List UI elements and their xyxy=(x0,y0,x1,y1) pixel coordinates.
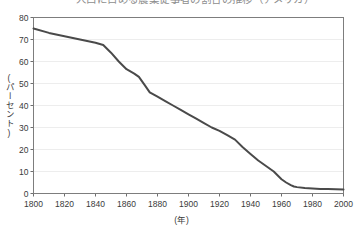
x-tick-label: 1940 xyxy=(241,199,260,209)
x-tick-label: 1800 xyxy=(24,199,43,209)
y-axis-ticks: 01020304050607080 xyxy=(19,13,33,199)
x-axis-ticks: 1800182018401860188019001920194019601980… xyxy=(24,194,353,209)
x-tick-label: 1840 xyxy=(86,199,105,209)
y-tick-label: 80 xyxy=(19,13,29,23)
chart-figure: 人口に占める農業従事者の割合の推移（アメリカ） 0102030405060708… xyxy=(0,0,363,230)
x-tick-label: 1820 xyxy=(55,199,74,209)
data-series-line xyxy=(34,29,344,190)
x-axis-title: (年) xyxy=(0,213,363,225)
y-tick-label: 30 xyxy=(19,123,29,133)
y-tick-label: 40 xyxy=(19,101,29,111)
line-chart-plot: 01020304050607080 1800182018401860188019… xyxy=(0,0,363,230)
x-tick-label: 1980 xyxy=(303,199,322,209)
y-axis-title: (パーセント) xyxy=(1,66,13,144)
x-tick-label: 1920 xyxy=(210,199,229,209)
y-tick-label: 70 xyxy=(19,35,29,45)
x-tick-label: 1880 xyxy=(148,199,167,209)
x-tick-label: 1900 xyxy=(179,199,198,209)
y-tick-label: 50 xyxy=(19,79,29,89)
y-tick-label: 0 xyxy=(24,189,29,199)
x-tick-label: 2000 xyxy=(334,199,353,209)
y-tick-label: 20 xyxy=(19,145,29,155)
x-tick-label: 1960 xyxy=(272,199,291,209)
x-tick-label: 1860 xyxy=(117,199,136,209)
gridlines xyxy=(34,40,344,172)
y-tick-label: 60 xyxy=(19,57,29,67)
y-tick-label: 10 xyxy=(19,167,29,177)
